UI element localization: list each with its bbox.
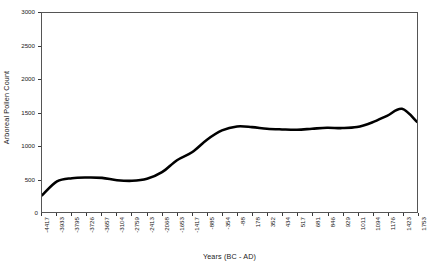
x-tick-mark [403, 213, 404, 216]
x-tick-label: 434 [285, 217, 291, 227]
x-tick-label: -4417 [44, 217, 50, 233]
x-tick-mark [116, 213, 117, 216]
x-tick-label: 1094 [375, 217, 381, 231]
x-tick-label: 178 [255, 217, 261, 227]
plot-svg [42, 13, 417, 212]
x-tick-mark [101, 213, 102, 216]
x-tick-label: -3657 [104, 217, 110, 233]
x-tick-mark [312, 213, 313, 216]
x-tick-label: 1423 [406, 217, 412, 231]
x-axis-title: Years (BC - AD) [41, 252, 418, 261]
x-tick-label: -1653 [179, 217, 185, 233]
x-tick-mark [162, 213, 163, 216]
x-tick-mark [207, 213, 208, 216]
x-tick-label: 352 [270, 217, 276, 227]
x-tick-mark [373, 213, 374, 216]
y-tick-label: 3000 [8, 9, 38, 15]
x-tick-label: -2068 [164, 217, 170, 233]
x-tick-label: -354 [225, 217, 231, 229]
x-tick-label: -88 [240, 217, 246, 226]
data-line-arboreal-pollen [42, 109, 417, 196]
x-tick-label: 1011 [360, 217, 366, 230]
y-axis-tick-labels: 50010001500200025003000 [8, 0, 38, 269]
y-tick-label: 2000 [8, 76, 38, 82]
pollen-count-chart: Arboreal Pollen Count 500100015002000250… [0, 0, 441, 269]
y-tick-label: 2500 [8, 42, 38, 48]
x-tick-mark [267, 213, 268, 216]
x-tick-label: -885 [209, 217, 215, 229]
plot-area [41, 12, 418, 213]
x-tick-label: 1176 [390, 217, 396, 230]
x-tick-label: -2759 [134, 217, 140, 233]
x-tick-mark [237, 213, 238, 216]
x-tick-label: 681 [315, 217, 321, 227]
x-tick-mark [297, 213, 298, 216]
x-tick-label: -1417 [194, 217, 200, 233]
x-tick-mark [147, 213, 148, 216]
x-tick-mark [41, 213, 42, 216]
x-tick-mark [177, 213, 178, 216]
x-tick-label: -3726 [89, 217, 95, 233]
x-tick-mark [388, 213, 389, 216]
x-tick-mark [56, 213, 57, 216]
x-tick-mark [86, 213, 87, 216]
x-tick-mark [282, 213, 283, 216]
x-tick-mark [192, 213, 193, 216]
x-tick-label: 1753 [421, 217, 427, 231]
x-tick-label: -2413 [149, 217, 155, 233]
x-tick-label: 929 [345, 217, 351, 227]
x-tick-label: 846 [330, 217, 336, 227]
y-axis-zero-label: 0 [30, 209, 38, 216]
y-tick-label: 1000 [8, 143, 38, 149]
x-tick-mark [71, 213, 72, 216]
x-tick-mark [222, 213, 223, 216]
x-tick-mark [131, 213, 132, 216]
x-tick-mark [343, 213, 344, 216]
x-tick-label: -3104 [119, 217, 125, 233]
x-tick-mark [418, 213, 419, 216]
y-tick-label: 1500 [8, 109, 38, 115]
x-tick-label: 517 [300, 217, 306, 227]
x-tick-mark [252, 213, 253, 216]
x-tick-mark [358, 213, 359, 216]
x-tick-mark [328, 213, 329, 216]
x-tick-label: -3795 [74, 217, 80, 233]
y-tick-label: 500 [8, 176, 38, 182]
x-tick-label: -3933 [59, 217, 65, 233]
